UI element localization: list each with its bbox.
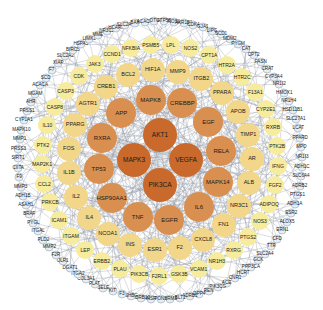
node-lep[interactable] (76, 241, 94, 259)
node-htr2a[interactable] (218, 56, 236, 74)
node-pygl[interactable] (29, 219, 38, 228)
node-pik3cb[interactable] (130, 265, 148, 283)
node-braf[interactable] (25, 210, 34, 219)
node-ace[interactable] (222, 278, 231, 287)
node-cxcl8[interactable] (191, 228, 215, 252)
node-hsp90aa1[interactable] (97, 183, 127, 213)
node-mapk14[interactable] (203, 167, 233, 197)
node-rela[interactable] (206, 136, 236, 166)
node-f2r[interactable] (51, 250, 60, 259)
node-itgb2[interactable] (189, 67, 213, 91)
node-ccl2[interactable] (35, 175, 53, 193)
node-slc2a4[interactable] (261, 249, 270, 258)
node-mpo[interactable] (297, 143, 306, 152)
node-esr2[interactable] (287, 209, 296, 218)
node-pon1[interactable] (156, 295, 165, 304)
node-cyp1a1[interactable] (19, 116, 28, 125)
node-kit[interactable] (108, 287, 117, 296)
node-adrb10[interactable] (137, 293, 146, 302)
node-esr1[interactable] (143, 238, 167, 262)
node-map2k1[interactable] (33, 155, 51, 173)
node-f2[interactable] (168, 236, 192, 260)
node-ren[interactable] (204, 286, 213, 295)
node-slc27a1[interactable] (291, 115, 300, 124)
node-bax[interactable] (130, 19, 139, 28)
node-f7[interactable] (47, 66, 56, 75)
node-egf[interactable] (193, 107, 223, 137)
node-hif1a[interactable] (141, 58, 165, 82)
node-nos1[interactable] (170, 17, 179, 26)
node-htr2c[interactable] (233, 68, 251, 86)
node-hcrt[interactable] (239, 268, 248, 277)
node-insr[interactable] (146, 294, 155, 303)
node-slc2a2[interactable] (61, 52, 70, 61)
node-f3[interactable] (117, 290, 126, 299)
node-nr1h4[interactable] (284, 97, 293, 106)
node-ahr[interactable] (26, 98, 35, 107)
node-mmp2[interactable] (45, 243, 54, 252)
node-tp53[interactable] (84, 154, 114, 184)
node-nr3c2[interactable] (102, 26, 111, 35)
node-hspa5[interactable] (76, 40, 85, 49)
node-egfr[interactable] (154, 205, 184, 235)
node-pld2[interactable] (39, 235, 48, 244)
node-akt1[interactable] (143, 118, 177, 152)
node-prkcb[interactable] (41, 193, 59, 211)
node-gsk3b[interactable] (170, 265, 188, 283)
node-akr1b1[interactable] (179, 18, 188, 27)
node-hcar2[interactable] (111, 23, 120, 32)
node-timp1[interactable] (236, 123, 260, 147)
node-rxrg[interactable] (225, 241, 243, 259)
node-nr1i3[interactable] (297, 152, 306, 161)
node-ptgs1[interactable] (293, 191, 302, 200)
node-mapk10[interactable] (17, 125, 26, 134)
node-ppp3ca[interactable] (246, 262, 255, 271)
node-icam1[interactable] (50, 211, 68, 229)
node-plat[interactable] (90, 279, 99, 288)
node-fos[interactable] (57, 137, 81, 161)
node-il4[interactable] (77, 206, 101, 230)
node-ar[interactable] (240, 147, 264, 171)
node-acaca[interactable] (36, 81, 45, 90)
node-pik3ca[interactable] (143, 168, 177, 202)
node-fgf2[interactable] (266, 176, 284, 194)
node-erbb2[interactable] (93, 252, 111, 270)
node-jak3[interactable] (86, 55, 104, 73)
node-creb1[interactable] (94, 75, 118, 99)
node-crebbp[interactable] (167, 88, 197, 118)
node-dpp4[interactable] (195, 289, 204, 298)
node-itgam[interactable] (62, 227, 80, 245)
node-nr3c1[interactable] (227, 194, 251, 218)
node-gck[interactable] (254, 256, 263, 265)
node-dgat1[interactable] (66, 263, 75, 272)
node-rxrb[interactable] (264, 118, 282, 136)
node-sirt1[interactable] (14, 154, 23, 163)
node-nos3[interactable] (251, 212, 269, 230)
node-lipg[interactable] (208, 26, 217, 35)
node-rxra[interactable] (87, 123, 117, 153)
node-ptk2[interactable] (34, 136, 52, 154)
node-mmp9[interactable] (166, 60, 190, 84)
node-vegfa[interactable] (169, 143, 203, 177)
node-limk1[interactable] (85, 35, 94, 44)
node-lcat[interactable] (294, 124, 303, 133)
node-ins[interactable] (118, 233, 142, 257)
node-olr1[interactable] (58, 257, 67, 266)
node-pik3cg[interactable] (213, 283, 222, 292)
node-ttr[interactable] (267, 242, 276, 251)
node-casp3[interactable] (57, 82, 75, 100)
node-il6[interactable] (184, 192, 214, 222)
node-adipoq[interactable] (260, 195, 278, 213)
node-slc6a4[interactable] (297, 172, 306, 181)
node-scd[interactable] (41, 73, 50, 82)
node-psmb5[interactable] (142, 36, 160, 54)
node-vcam1[interactable] (190, 260, 208, 278)
node-il10[interactable] (38, 116, 56, 134)
node-scd1[interactable] (217, 30, 226, 39)
node-mme[interactable] (93, 30, 102, 39)
node-ciita[interactable] (14, 163, 23, 172)
node-f9[interactable] (15, 173, 24, 182)
node-otc[interactable] (150, 16, 159, 25)
node-ptk2b[interactable] (268, 137, 286, 155)
node-f2rl1[interactable] (150, 267, 168, 285)
